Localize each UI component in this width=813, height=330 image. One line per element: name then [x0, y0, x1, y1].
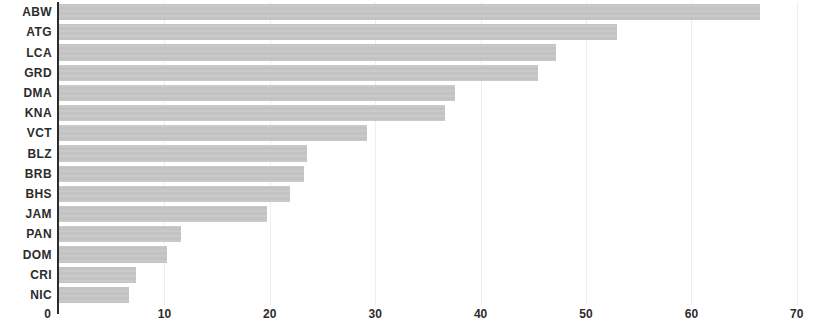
bar-row: [59, 4, 811, 20]
bar-row: [59, 246, 811, 262]
bar-dom: [59, 246, 167, 262]
bar-atg: [59, 24, 617, 40]
y-tick-label-brb: BRB: [0, 168, 52, 180]
y-tick-label-abw: ABW: [0, 6, 52, 18]
bar-row: [59, 24, 811, 40]
bar-row: [59, 267, 811, 283]
bar-kna: [59, 105, 445, 121]
y-tick-label-atg: ATG: [0, 26, 52, 38]
y-tick-label-grd: GRD: [0, 67, 52, 79]
y-tick-label-bhs: BHS: [0, 188, 52, 200]
bar-row: [59, 226, 811, 242]
x-tick-label-0: 0: [44, 308, 51, 320]
bar-row: [59, 206, 811, 222]
x-tick-label-30: 30: [369, 308, 382, 320]
y-tick-label-blz: BLZ: [0, 148, 52, 160]
bar-nic: [59, 287, 129, 303]
bar-chart: ABWATGLCAGRDDMAKNAVCTBLZBRBBHSJAMPANDOMC…: [0, 0, 813, 330]
bar-blz: [59, 145, 307, 161]
bar-row: [59, 166, 811, 182]
y-tick-label-lca: LCA: [0, 47, 52, 59]
bar-row: [59, 287, 811, 303]
x-axis-tick-labels: 010203040506070: [0, 308, 813, 330]
bar-abw: [59, 4, 760, 20]
y-tick-label-kna: KNA: [0, 107, 52, 119]
bar-jam: [59, 206, 267, 222]
y-tick-label-cri: CRI: [0, 269, 52, 281]
bar-bhs: [59, 186, 290, 202]
bar-row: [59, 44, 811, 60]
bar-lca: [59, 44, 556, 60]
bar-row: [59, 65, 811, 81]
x-tick-label-50: 50: [579, 308, 592, 320]
x-tick-label-60: 60: [685, 308, 698, 320]
x-tick-label-20: 20: [263, 308, 276, 320]
bar-row: [59, 186, 811, 202]
y-tick-label-dom: DOM: [0, 249, 52, 261]
x-tick-label-10: 10: [158, 308, 171, 320]
y-tick-label-dma: DMA: [0, 87, 52, 99]
y-tick-label-nic: NIC: [0, 289, 52, 301]
bar-brb: [59, 166, 304, 182]
bar-dma: [59, 85, 455, 101]
x-tick-label-40: 40: [474, 308, 487, 320]
bar-vct: [59, 125, 367, 141]
bar-grd: [59, 65, 538, 81]
x-tick-label-70: 70: [790, 308, 803, 320]
bar-pan: [59, 226, 181, 242]
bar-row: [59, 125, 811, 141]
y-axis-tick-labels: ABWATGLCAGRDDMAKNAVCTBLZBRBBHSJAMPANDOMC…: [0, 2, 52, 305]
bar-cri: [59, 267, 136, 283]
bar-row: [59, 105, 811, 121]
y-tick-label-jam: JAM: [0, 208, 52, 220]
plot-area: [59, 2, 811, 305]
y-tick-label-vct: VCT: [0, 127, 52, 139]
y-tick-label-pan: PAN: [0, 228, 52, 240]
bar-row: [59, 85, 811, 101]
bar-row: [59, 145, 811, 161]
